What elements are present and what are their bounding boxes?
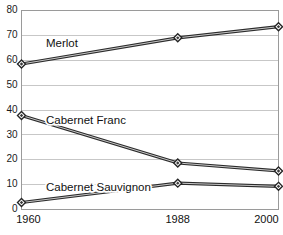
series-label: Cabernet Sauvignon (46, 181, 151, 193)
y-axis-tick-label: 30 (6, 129, 18, 140)
y-axis-tick-label: 20 (6, 153, 18, 164)
chart-canvas: 01020304050607080 196019882000 MerlotMer… (0, 0, 283, 235)
series-label: Merlot (46, 37, 79, 49)
y-axis-tick-label: 10 (6, 178, 18, 189)
y-axis-tick-label: 80 (6, 4, 18, 15)
y-axis-tick-label: 50 (6, 79, 18, 90)
y-axis-tick-label: 40 (6, 104, 18, 115)
y-axis-tick-labels: 01020304050607080 (6, 4, 18, 214)
x-axis-tick-label: 1988 (166, 213, 190, 225)
y-axis-tick-label: 70 (6, 29, 18, 40)
line-chart: 01020304050607080 196019882000 MerlotMer… (0, 0, 283, 235)
y-axis-tick-label: 60 (6, 54, 18, 65)
x-axis-tick-label: 1960 (16, 213, 40, 225)
series-label: Cabernet Franc (46, 114, 126, 126)
x-axis-tick-label: 2000 (254, 213, 278, 225)
